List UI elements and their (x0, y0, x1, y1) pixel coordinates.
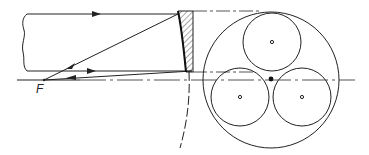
reference-arc (180, 72, 189, 148)
sub-aperture-bottom-left-center (238, 95, 241, 98)
sub-aperture-top-center (270, 40, 273, 43)
aperture-center-dot (269, 77, 274, 82)
arrow-icon-incoming-top (92, 11, 101, 17)
sub-aperture-bottom-right (273, 68, 331, 126)
sub-aperture-top (243, 13, 301, 71)
focus-point (43, 79, 45, 81)
beam-cross-section (23, 14, 27, 71)
arrow-icon-reflected-bottom (66, 75, 76, 80)
optical-diagram (0, 0, 369, 155)
focus-label: F (36, 82, 43, 96)
reflected-ray-top (44, 14, 178, 80)
sub-aperture-bottom-right-center (300, 95, 303, 98)
reflected-ray-bottom (44, 71, 192, 80)
arrow-icon-incoming-bottom (87, 68, 96, 74)
sub-aperture-bottom-left (211, 68, 269, 126)
